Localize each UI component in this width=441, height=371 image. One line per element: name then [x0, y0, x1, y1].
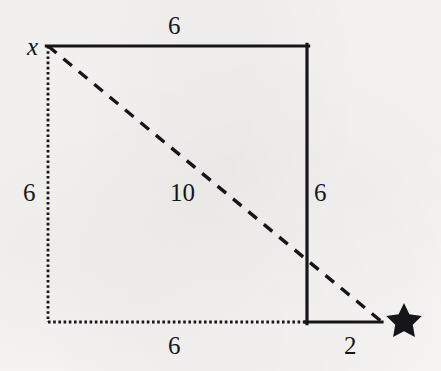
segment-diagonal — [48, 46, 382, 322]
label-bottom-side: 6 — [168, 333, 181, 358]
geometry-figure: 6 6 6 6 10 2 x — [0, 0, 441, 371]
label-left-side: 6 — [23, 180, 36, 205]
label-right-side: 6 — [314, 180, 327, 205]
label-diagonal: 10 — [170, 180, 195, 205]
label-top-side: 6 — [168, 13, 181, 38]
star-icon — [386, 303, 422, 337]
figure-canvas — [0, 0, 441, 371]
label-unknown-vertex: x — [27, 34, 38, 59]
label-bottom-extension: 2 — [344, 333, 357, 358]
